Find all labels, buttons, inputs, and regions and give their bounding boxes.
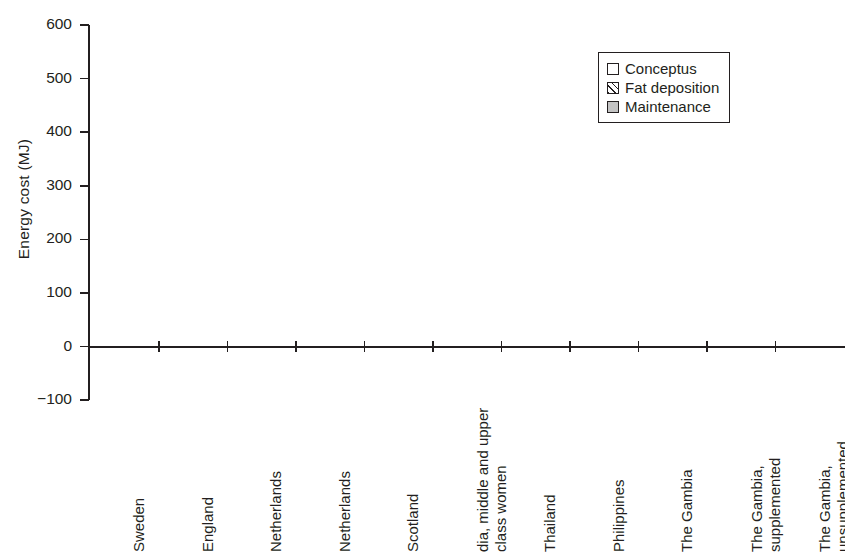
x-axis-tick: [569, 341, 571, 352]
y-axis-tick: [80, 239, 89, 241]
y-axis-tick-label: 300: [12, 176, 72, 194]
legend-item-maintenance: Maintenance: [607, 97, 719, 116]
legend-label-maintenance: Maintenance: [625, 98, 711, 115]
y-axis-tick: [80, 131, 89, 133]
x-axis-label: The Gambia: [678, 469, 696, 552]
y-axis-tick-label: −100: [12, 390, 72, 408]
x-axis-label: The Gambia,supplemented: [748, 382, 783, 552]
x-axis-label: Netherlands: [336, 471, 354, 552]
x-axis-tick: [227, 341, 229, 352]
legend-item-conceptus: Conceptus: [607, 59, 719, 78]
y-axis-tick-label: 200: [12, 229, 72, 247]
x-axis-tick: [158, 341, 160, 352]
x-axis-tick: [706, 341, 708, 352]
y-axis-tick: [80, 185, 89, 187]
x-axis-tick: [364, 341, 366, 352]
x-axis-tick: [432, 341, 434, 352]
y-axis-tick: [80, 24, 89, 26]
x-axis-label: Philippines: [610, 479, 628, 552]
gray-square-icon: [607, 101, 619, 113]
y-axis-tick: [80, 78, 89, 80]
white-square-icon: [607, 63, 619, 75]
legend-label-fat-deposition: Fat deposition: [625, 79, 719, 96]
hatched-square-icon: [607, 82, 619, 94]
y-axis-tick: [80, 346, 89, 348]
legend-item-fat-deposition: Fat deposition: [607, 78, 719, 97]
x-axis-tick: [501, 341, 503, 352]
y-axis-tick-label: 0: [12, 337, 72, 355]
x-axis-label: England: [199, 497, 217, 552]
stacked-bar-chart: Energy cost (MJ) 6005004003002001000−100…: [0, 0, 845, 555]
x-axis-label: Sweden: [130, 498, 148, 552]
x-axis-tick: [638, 341, 640, 352]
x-axis-label: Scotland: [404, 494, 422, 552]
y-axis-tick-label: 600: [12, 15, 72, 33]
y-axis-tick: [80, 292, 89, 294]
x-axis-line: [88, 346, 845, 348]
chart-legend: Conceptus Fat deposition Maintenance: [598, 52, 730, 123]
y-axis-tick-label: 100: [12, 283, 72, 301]
x-axis-label: The Gambia,unsupplemented: [816, 382, 845, 552]
y-axis-tick-label: 400: [12, 122, 72, 140]
y-axis-tick-label: 500: [12, 69, 72, 87]
y-axis-line: [88, 25, 90, 400]
x-axis-label: Netherlands: [267, 471, 285, 552]
x-axis-label: dia, middle and upperclass women: [474, 382, 509, 552]
legend-label-conceptus: Conceptus: [625, 60, 697, 77]
y-axis-tick: [80, 399, 89, 401]
x-axis-tick: [775, 341, 777, 352]
x-axis-label: Thailand: [541, 494, 559, 552]
x-axis-tick: [295, 341, 297, 352]
